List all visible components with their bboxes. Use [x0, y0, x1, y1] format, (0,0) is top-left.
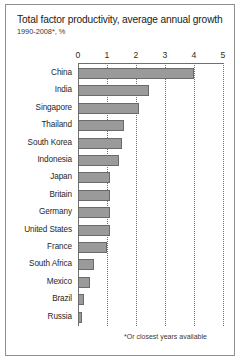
category-label-russia: Russia — [48, 311, 72, 323]
bar-singapore — [78, 103, 139, 114]
category-label-united-states: United States — [24, 224, 72, 236]
chart-subtitle: 1990-2008*, % — [17, 27, 233, 36]
bar-india — [78, 85, 149, 96]
bar-row: South Korea — [78, 136, 223, 153]
chart-title: Total factor productivity, average annua… — [17, 14, 233, 26]
chart-page: Total factor productivity, average annua… — [0, 0, 240, 361]
category-label-germany: Germany — [39, 206, 72, 218]
bar-row: Indonesia — [78, 153, 223, 170]
bar-row: Russia — [78, 310, 223, 327]
bar-row: Mexico — [78, 275, 223, 292]
category-label-mexico: Mexico — [47, 276, 72, 288]
bar-row: Japan — [78, 170, 223, 187]
bar-row: France — [78, 240, 223, 257]
bar-row: China — [78, 66, 223, 83]
category-label-south-korea: South Korea — [28, 137, 72, 149]
x-tick-label-1: 1 — [105, 50, 110, 60]
category-label-britain: Britain — [49, 189, 72, 201]
x-tick-label-4: 4 — [192, 50, 197, 60]
bar-south-korea — [78, 138, 122, 149]
bar-thailand — [78, 120, 124, 131]
bar-south-africa — [78, 259, 94, 270]
category-label-china: China — [51, 67, 72, 79]
chart-frame: Total factor productivity, average annua… — [5, 4, 235, 356]
category-label-south-africa: South Africa — [29, 258, 72, 270]
bar-mexico — [78, 277, 90, 288]
chart-footnote: *Or closest years available — [124, 333, 207, 340]
category-label-india: India — [55, 84, 72, 96]
bar-row: India — [78, 83, 223, 100]
gridline-5 — [223, 63, 225, 326]
x-tick-label-0: 0 — [76, 50, 81, 60]
bar-france — [78, 242, 107, 253]
x-tick-label-5: 5 — [221, 50, 226, 60]
category-label-thailand: Thailand — [41, 119, 72, 131]
axis-baseline — [78, 63, 223, 64]
x-tick-label-2: 2 — [134, 50, 139, 60]
bar-row: South Africa — [78, 257, 223, 274]
category-label-japan: Japan — [50, 171, 72, 183]
bar-row: Britain — [78, 188, 223, 205]
bar-china — [78, 68, 194, 79]
bar-row: United States — [78, 223, 223, 240]
bar-row: Germany — [78, 205, 223, 222]
category-label-singapore: Singapore — [36, 102, 72, 114]
bar-germany — [78, 207, 110, 218]
bar-indonesia — [78, 155, 119, 166]
category-label-france: France — [47, 241, 72, 253]
x-tick-label-3: 3 — [163, 50, 168, 60]
bar-row: Singapore — [78, 101, 223, 118]
plot-area: 012345 ChinaIndiaSingaporeThailandSouth … — [78, 63, 223, 326]
bar-united-states — [78, 225, 110, 236]
bar-japan — [78, 172, 110, 183]
bar-brazil — [78, 294, 84, 305]
bar-row: Thailand — [78, 118, 223, 135]
category-label-indonesia: Indonesia — [37, 154, 72, 166]
bar-britain — [78, 190, 110, 201]
bar-russia — [78, 312, 82, 323]
category-label-brazil: Brazil — [52, 293, 72, 305]
bar-row: Brazil — [78, 292, 223, 309]
